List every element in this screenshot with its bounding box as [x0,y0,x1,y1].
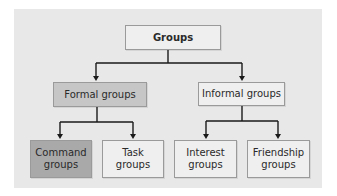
node-informal-groups-label: Informal groups [202,88,281,100]
node-friendship-groups: Friendship groups [247,140,310,178]
node-command-groups: Command groups [30,140,92,178]
node-command-groups-line1: Command [35,147,86,159]
node-task-groups: Task groups [102,140,164,178]
node-task-groups-line1: Task [122,147,144,159]
node-formal-groups-label: Formal groups [64,89,136,101]
node-interest-groups-line2: groups [188,159,222,171]
node-interest-groups: Interest groups [174,140,237,178]
node-friendship-groups-line1: Friendship [253,147,304,159]
node-informal-groups: Informal groups [198,82,285,106]
node-formal-groups: Formal groups [53,82,147,107]
node-interest-groups-line1: Interest [186,147,225,159]
node-task-groups-line2: groups [116,159,150,171]
node-groups-label: Groups [153,32,193,44]
node-command-groups-line2: groups [44,159,78,171]
node-groups: Groups [125,25,221,50]
node-friendship-groups-line2: groups [261,159,295,171]
